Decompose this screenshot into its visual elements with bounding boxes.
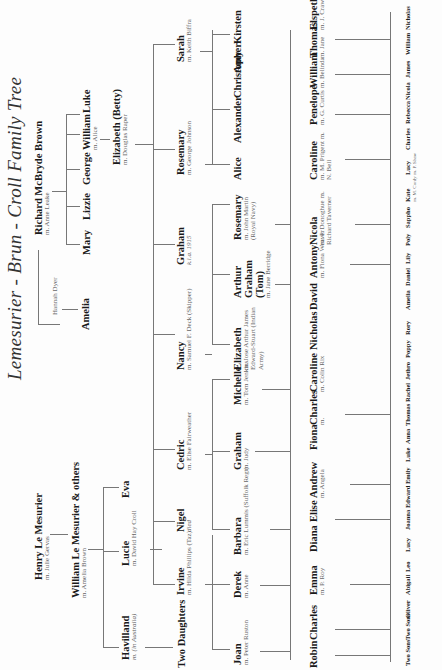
person-spouse: m. Angela <box>319 462 326 498</box>
connector <box>205 354 212 355</box>
person-name: Eva <box>120 480 131 498</box>
person-elspeth: Elspeth m. J. Crawford <box>308 0 326 30</box>
connector <box>135 144 153 145</box>
connector <box>335 629 390 630</box>
connector <box>153 584 175 585</box>
person-name: Rebecca <box>405 101 412 124</box>
person-joanna: Joanna <box>405 510 412 530</box>
person-charles-ruston: Charles <box>308 605 319 640</box>
person-graham-judy: Graham m. Judy <box>232 432 250 470</box>
person-spouse: m. Julie Gervas <box>44 493 51 580</box>
person-name: Edward <box>405 486 412 508</box>
connector <box>212 34 230 35</box>
person-cedric: Cedric m. Elise Fairweather <box>175 412 193 470</box>
person-barbara: Barbara m. Eric Lummis (Suffolk Regt) <box>232 467 250 555</box>
person-edward: Edward <box>405 486 412 508</box>
connector <box>355 224 390 225</box>
person-rosemary-martin: Rosemary m. John Martin (Royal Navy) <box>232 190 258 240</box>
person-name: Nicola <box>405 82 412 100</box>
person-spouse: m. Eric Lummis (Suffolk Regt) <box>243 467 250 555</box>
connector <box>205 164 212 165</box>
connector <box>212 30 213 70</box>
person-fiona: Fiona <box>308 424 319 450</box>
person-alexander: Alexander <box>232 96 243 143</box>
person-spouse: m. David Hay Croll <box>131 510 138 566</box>
person-name: Elise <box>308 500 319 522</box>
person-spouse: m. Colin Rix <box>319 353 326 392</box>
connector <box>212 584 230 585</box>
person-name: Sappho <box>405 207 412 228</box>
person-name: Alexander <box>232 96 243 143</box>
connector <box>335 114 390 115</box>
person-nicholas-e: Nicholas <box>308 311 319 350</box>
person-two-daughters: Two Daughters <box>176 600 187 668</box>
person-rebecca: Rebecca <box>405 101 412 124</box>
person-note: k.i.a. 1915 <box>186 227 193 265</box>
connector <box>153 149 175 150</box>
connector <box>145 647 173 648</box>
person-amelia-g: Amelia <box>405 290 412 310</box>
person-name: Nicholas <box>308 311 319 350</box>
person-eva: Eva <box>120 480 131 498</box>
person-name: Charles <box>405 128 412 150</box>
person-elizabeth-nancy: Elizabeth m. Jose Arthur James Edward-St… <box>232 304 265 370</box>
person-spouse: m. M. Prigent m. N. Bell <box>319 125 334 180</box>
person-spouse: m. Jose Arthur James Edward-Stuart (Indi… <box>243 304 265 370</box>
connector <box>153 244 175 245</box>
person-spouse: m. <box>319 390 326 425</box>
connector <box>153 521 175 522</box>
person-spouse: m. Keith Biffra <box>186 19 193 62</box>
person-name: Kate <box>405 176 412 202</box>
person-name: Alice <box>232 157 243 180</box>
person-name: Oliver <box>405 600 412 618</box>
person-daniel: Daniel <box>405 268 412 286</box>
connector <box>275 284 290 285</box>
family-tree-page: Lemesurier - Brun - Croll Family Tree He… <box>0 0 442 670</box>
person-james: James <box>405 61 412 78</box>
connector <box>66 114 80 115</box>
person-sarah: Sarah m. Keith Biffra <box>175 19 193 62</box>
person-name: Amelia <box>405 290 412 310</box>
person-diana: Diana <box>308 525 319 552</box>
connector <box>66 134 80 135</box>
person-note: died <box>186 509 193 532</box>
connector <box>212 380 213 530</box>
connector <box>212 344 230 345</box>
person-name: Mary <box>81 230 92 255</box>
connector <box>350 584 390 585</box>
person-nancy: Nancy m. Samuel F. Deck (Skipper) <box>175 289 193 370</box>
person-richard-brown: Richard McBryde Brown m. Anne Leake <box>33 121 51 235</box>
person-name: Kirsten <box>232 10 243 44</box>
person-spouse: m. Judy <box>243 432 250 470</box>
person-spouse: m. P. Shaw <box>412 153 417 175</box>
person-name: Two Sons <box>405 640 412 666</box>
person-amelia-brown: Amelia <box>80 298 91 330</box>
person-sappho: Sappho <box>405 207 412 228</box>
person-nicola: Nicola m. P. Donoghue m. Richard Taverne… <box>308 185 334 245</box>
connector <box>212 205 213 345</box>
person-emily: Emily <box>405 467 412 484</box>
person-kate: Kate m. M. Cordy <box>405 176 417 202</box>
person-anna: Anna <box>405 429 412 444</box>
person-oliver: Oliver <box>405 600 412 618</box>
person-name: Lucy <box>405 538 412 552</box>
person-name: George <box>81 152 92 185</box>
person-william-t: William <box>405 33 412 55</box>
connector <box>212 451 230 452</box>
connector <box>350 264 390 265</box>
connector <box>38 324 60 325</box>
connector <box>345 414 390 415</box>
person-name: Lucy <box>405 153 412 175</box>
person-name: Lily <box>405 253 412 264</box>
person-lucy-e: Lucy <box>405 538 412 552</box>
connector <box>255 451 290 452</box>
connector <box>335 74 390 75</box>
connector <box>350 484 390 485</box>
person-name: Nicholas <box>405 6 412 30</box>
connector <box>212 109 230 110</box>
person-name: Anna <box>405 429 412 444</box>
person-name: Daniel <box>405 268 412 286</box>
person-kirsten: Kirsten <box>232 10 243 44</box>
person-andrew: Andrew m. Angela <box>308 462 326 498</box>
person-poly: Poly <box>405 234 412 246</box>
